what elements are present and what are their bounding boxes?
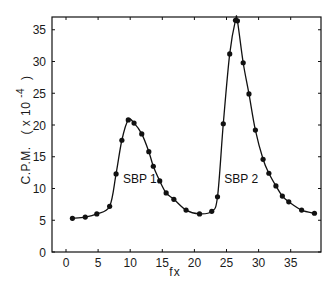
data-point-marker bbox=[107, 204, 112, 209]
data-point-marker bbox=[280, 194, 285, 199]
y-axis-title-main: C.P.M. bbox=[19, 146, 33, 184]
data-point-marker bbox=[183, 207, 188, 212]
data-point-marker bbox=[131, 120, 136, 125]
data-point-marker bbox=[126, 117, 131, 122]
data-point-marker bbox=[286, 199, 291, 204]
chart-background bbox=[0, 0, 334, 289]
data-point-marker bbox=[235, 18, 240, 23]
data-point-marker bbox=[299, 207, 304, 212]
data-point-marker bbox=[94, 211, 99, 216]
data-point-marker bbox=[157, 178, 162, 183]
peak-label: SBP 1 bbox=[123, 172, 157, 186]
x-axis-title: fx bbox=[169, 265, 180, 279]
data-point-marker bbox=[197, 211, 202, 216]
data-point-marker bbox=[70, 216, 75, 221]
data-point-marker bbox=[171, 197, 176, 202]
y-tick-label: 20 bbox=[33, 119, 47, 133]
x-tick-label: 10 bbox=[124, 256, 138, 270]
data-point-marker bbox=[312, 211, 317, 216]
x-tick-label: 25 bbox=[220, 256, 234, 270]
data-point-marker bbox=[164, 190, 169, 195]
data-point-marker bbox=[253, 127, 258, 132]
data-point-marker bbox=[146, 149, 151, 154]
x-tick-label: 35 bbox=[284, 256, 298, 270]
data-point-marker bbox=[139, 131, 144, 136]
data-point-marker bbox=[227, 51, 232, 56]
data-point-marker bbox=[241, 60, 246, 65]
y-tick-label: 15 bbox=[33, 150, 47, 164]
data-point-marker bbox=[246, 91, 251, 96]
data-point-marker bbox=[209, 209, 214, 214]
data-point-marker bbox=[151, 164, 156, 169]
data-point-marker bbox=[266, 171, 271, 176]
y-axis-title-close: ) bbox=[19, 75, 33, 80]
y-tick-label: 30 bbox=[33, 55, 47, 69]
x-tick-label: 0 bbox=[63, 256, 70, 270]
data-point-marker bbox=[221, 121, 226, 126]
y-tick-label: 5 bbox=[39, 214, 46, 228]
y-axis-title-unit: ( x 10 bbox=[19, 102, 33, 135]
x-tick-label: 30 bbox=[252, 256, 266, 270]
y-tick-label: 35 bbox=[33, 23, 47, 37]
data-point-marker bbox=[260, 157, 265, 162]
y-tick-label: 0 bbox=[39, 246, 46, 260]
x-tick-label: 20 bbox=[188, 256, 202, 270]
y-tick-label: 25 bbox=[33, 87, 47, 101]
x-tick-label: 5 bbox=[95, 256, 102, 270]
data-point-marker bbox=[215, 194, 220, 199]
y-tick-label: 10 bbox=[33, 182, 47, 196]
data-point-marker bbox=[119, 138, 124, 143]
data-point-marker bbox=[113, 171, 118, 176]
data-point-marker bbox=[83, 214, 88, 219]
chart: 05101520253035 05101520253035 SBP 1SBP 2… bbox=[0, 0, 334, 289]
peak-label: SBP 2 bbox=[224, 172, 258, 186]
x-tick-label: 15 bbox=[156, 256, 170, 270]
data-point-marker bbox=[273, 183, 278, 188]
y-axis-title-exponent: -4 bbox=[15, 88, 26, 98]
